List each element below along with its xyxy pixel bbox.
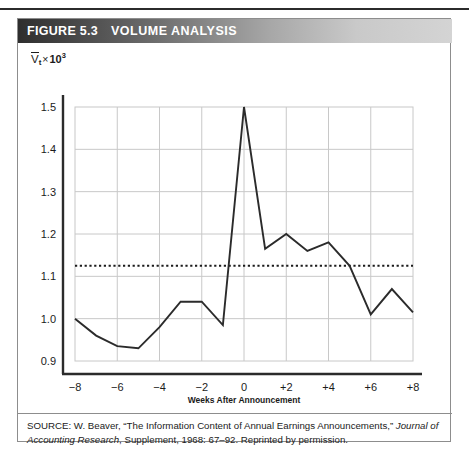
y-tick-label-1.0: 1.0 [41,313,56,325]
source-note: SOURCE: W. Beaver, “The Information Cont… [27,419,445,447]
x-tick-label-8: +8 [407,381,420,393]
x-tick-label-4: +4 [322,381,335,393]
figure-number-label: FIGURE 5.3 [27,24,98,38]
y-tick-label-0.9: 0.9 [41,355,56,367]
y-tick-labels: 1.5 1.4 1.3 1.2 1.1 1.0 0.9 [41,101,56,367]
figure-container: FIGURE 5.3 VOLUME ANALYSIS Vt×103 [17,18,451,442]
y-tick-label-1.1: 1.1 [41,270,56,282]
x-tick-label--4: −4 [153,381,166,393]
y-tick-label-1.4: 1.4 [41,143,56,155]
plot-region: Vt×103 [18,43,452,413]
source-divider [18,413,452,414]
x-tick-label--6: −6 [111,381,124,393]
source-prefix: SOURCE: W. Beaver, “The Information Cont… [27,420,396,431]
line-chart: 1.5 1.4 1.3 1.2 1.1 1.0 0.9 −8 −6 −4 −2 … [18,43,452,413]
figure-title-banner: FIGURE 5.3 VOLUME ANALYSIS [18,19,452,43]
y-tick-label-1.2: 1.2 [41,228,56,240]
x-tick-labels: −8 −6 −4 −2 0 +2 +4 +6 +8 [69,381,420,393]
x-tick-label--8: −8 [69,381,82,393]
x-tick-label-0: 0 [241,381,247,393]
x-tick-label-6: +6 [364,381,377,393]
x-tick-label-2: +2 [280,381,293,393]
figure-title-text: VOLUME ANALYSIS [111,24,237,38]
source-suffix: , Supplement, 1968: 67–92. Reprinted by … [119,434,348,445]
page-top-rule [0,8,469,10]
x-tick-label--2: −2 [195,381,208,393]
y-tick-label-1.3: 1.3 [41,186,56,198]
x-axis-title: Weeks After Announcement [188,395,301,405]
y-tick-label-1.5: 1.5 [41,101,56,113]
